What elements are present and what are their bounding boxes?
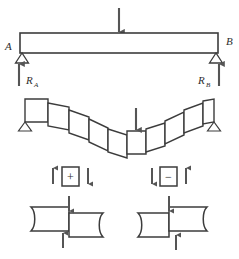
deflected-element <box>127 131 146 154</box>
negative-sign-symbol: − <box>165 170 172 184</box>
beam-shear-diagram: A B R A R B + − <box>0 0 239 259</box>
figure-canvas: A B R A R B + − <box>0 0 239 259</box>
deflected-element <box>203 99 214 124</box>
reaction-b-label: R <box>197 74 205 86</box>
beam-member <box>20 33 218 53</box>
deformation-right-segment <box>169 207 207 231</box>
deformation-right-segment <box>69 213 103 237</box>
reaction-a-label: R <box>25 74 33 86</box>
reaction-b-subscript: B <box>206 81 211 89</box>
reaction-a-subscript: A <box>33 81 39 89</box>
support-b-label: B <box>226 35 233 47</box>
deflected-element <box>25 99 48 122</box>
deformation-left-segment <box>138 213 169 237</box>
deformation-left-segment <box>31 207 69 231</box>
deflected-element <box>48 103 69 130</box>
support-a-label: A <box>4 40 12 52</box>
positive-sign-symbol: + <box>67 170 74 184</box>
